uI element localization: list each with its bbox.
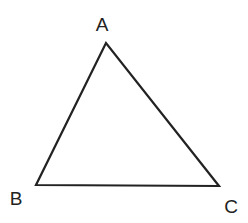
triangle-svg: A B C: [0, 0, 248, 223]
vertex-label-c: C: [224, 196, 238, 217]
triangle-abc: [36, 43, 219, 186]
vertex-label-b: B: [10, 188, 23, 209]
triangle-diagram: A B C: [0, 0, 248, 223]
vertex-label-a: A: [96, 14, 109, 35]
